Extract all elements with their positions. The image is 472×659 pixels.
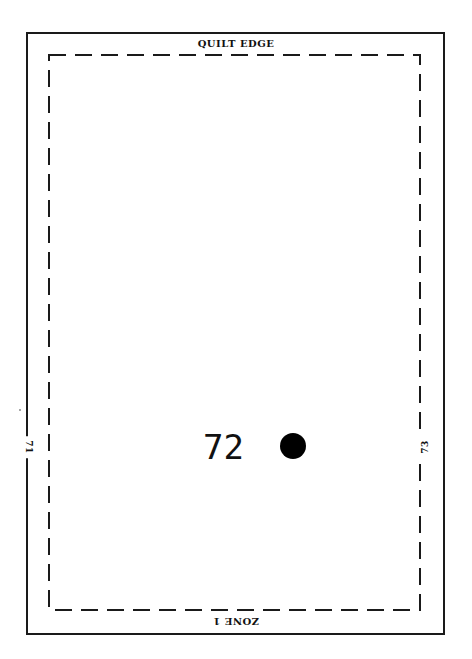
scan-speck xyxy=(19,409,21,411)
bottom-edge-label: ZONE 1 xyxy=(209,615,263,627)
filled-circle-marker-icon xyxy=(280,433,306,459)
block-number: 72 xyxy=(203,427,244,467)
seam-allowance-dashed-border xyxy=(0,0,472,659)
left-edge-label: 71 xyxy=(23,436,35,458)
right-edge-label: 73 xyxy=(419,436,431,458)
top-edge-label: QUILT EDGE xyxy=(194,38,279,50)
